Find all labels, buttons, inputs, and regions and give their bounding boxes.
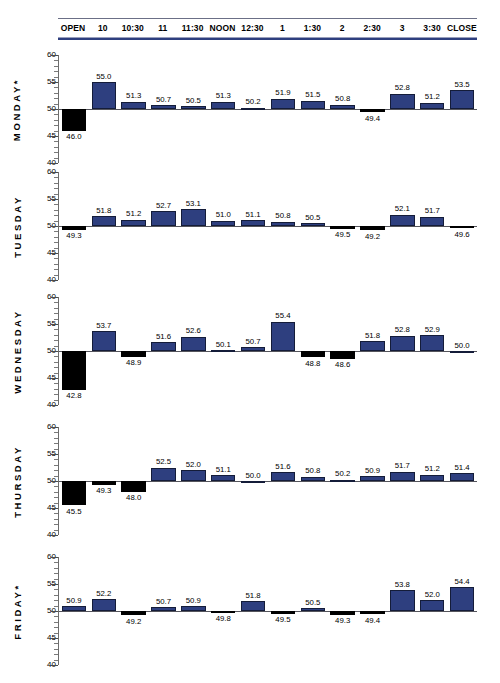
- bar[interactable]: [121, 102, 145, 109]
- bar-cell[interactable]: 55.4: [268, 297, 298, 405]
- bar[interactable]: [241, 108, 265, 110]
- bar[interactable]: [450, 351, 474, 353]
- bar-cell[interactable]: 55.0: [89, 55, 119, 163]
- bar-cell[interactable]: 52.6: [178, 297, 208, 405]
- bar-cell[interactable]: 53.7: [89, 297, 119, 405]
- bar-cell[interactable]: 50.8: [298, 427, 328, 535]
- bar-cell[interactable]: 51.2: [119, 172, 149, 280]
- bar-cell[interactable]: 48.6: [328, 297, 358, 405]
- bar-cell[interactable]: 51.1: [208, 427, 238, 535]
- bar[interactable]: [271, 611, 295, 614]
- bar-cell[interactable]: 50.8: [268, 172, 298, 280]
- bar[interactable]: [301, 477, 325, 481]
- bar-cell[interactable]: 51.7: [387, 427, 417, 535]
- bar-cell[interactable]: 54.4: [447, 557, 477, 665]
- bar-cell[interactable]: 51.3: [119, 55, 149, 163]
- bar-cell[interactable]: 50.5: [298, 172, 328, 280]
- bar[interactable]: [390, 94, 414, 109]
- bar[interactable]: [330, 105, 354, 109]
- bar-cell[interactable]: 48.9: [119, 297, 149, 405]
- bar-cell[interactable]: 52.0: [417, 557, 447, 665]
- bar[interactable]: [301, 223, 325, 226]
- bar[interactable]: [420, 335, 444, 351]
- bar-cell[interactable]: 50.2: [238, 55, 268, 163]
- bar-cell[interactable]: 50.9: [178, 557, 208, 665]
- bar[interactable]: [301, 351, 325, 357]
- bar[interactable]: [330, 611, 354, 615]
- bar-cell[interactable]: 49.4: [358, 55, 388, 163]
- bar[interactable]: [62, 351, 86, 390]
- bar-cell[interactable]: 51.2: [417, 427, 447, 535]
- bar[interactable]: [271, 222, 295, 226]
- bar[interactable]: [450, 587, 474, 611]
- bar[interactable]: [390, 472, 414, 481]
- bar[interactable]: [151, 105, 175, 109]
- bar-cell[interactable]: 49.3: [328, 557, 358, 665]
- bar[interactable]: [420, 103, 444, 109]
- bar-cell[interactable]: 49.4: [358, 557, 388, 665]
- bar[interactable]: [92, 82, 116, 109]
- bar[interactable]: [62, 109, 86, 131]
- bar[interactable]: [92, 216, 116, 226]
- bar-cell[interactable]: 51.1: [238, 172, 268, 280]
- bar[interactable]: [121, 220, 145, 226]
- bar-cell[interactable]: 51.9: [268, 55, 298, 163]
- bar-cell[interactable]: 51.8: [358, 297, 388, 405]
- bar-cell[interactable]: 50.0: [238, 427, 268, 535]
- bar[interactable]: [151, 607, 175, 611]
- bar[interactable]: [241, 220, 265, 226]
- bar[interactable]: [181, 106, 205, 109]
- bar-cell[interactable]: 51.2: [417, 55, 447, 163]
- bar[interactable]: [360, 611, 384, 614]
- bar[interactable]: [211, 350, 235, 352]
- bar[interactable]: [151, 468, 175, 482]
- bar-cell[interactable]: 46.0: [59, 55, 89, 163]
- bar-cell[interactable]: 53.5: [447, 55, 477, 163]
- bar-cell[interactable]: 52.5: [149, 427, 179, 535]
- bar-cell[interactable]: 51.0: [208, 172, 238, 280]
- bar[interactable]: [390, 215, 414, 226]
- bar[interactable]: [450, 90, 474, 109]
- bar-cell[interactable]: 48.8: [298, 297, 328, 405]
- bar[interactable]: [62, 226, 86, 230]
- bar[interactable]: [121, 351, 145, 357]
- bar[interactable]: [360, 341, 384, 351]
- bar[interactable]: [301, 101, 325, 109]
- bar[interactable]: [62, 606, 86, 611]
- bar-cell[interactable]: 52.1: [387, 172, 417, 280]
- bar[interactable]: [211, 102, 235, 109]
- bar[interactable]: [241, 601, 265, 611]
- bar-cell[interactable]: 52.0: [178, 427, 208, 535]
- bar-cell[interactable]: 49.6: [447, 172, 477, 280]
- bar-cell[interactable]: 50.2: [328, 427, 358, 535]
- bar[interactable]: [211, 221, 235, 226]
- bar[interactable]: [92, 599, 116, 611]
- bar[interactable]: [330, 351, 354, 359]
- bar-cell[interactable]: 50.8: [328, 55, 358, 163]
- bar-cell[interactable]: 50.0: [447, 297, 477, 405]
- bar[interactable]: [420, 475, 444, 481]
- bar[interactable]: [390, 590, 414, 611]
- bar[interactable]: [271, 99, 295, 109]
- bar-cell[interactable]: 51.8: [89, 172, 119, 280]
- bar-cell[interactable]: 52.9: [417, 297, 447, 405]
- bar-cell[interactable]: 49.8: [208, 557, 238, 665]
- bar-cell[interactable]: 49.3: [89, 427, 119, 535]
- bar-cell[interactable]: 52.8: [387, 297, 417, 405]
- bar-cell[interactable]: 51.6: [268, 427, 298, 535]
- bar-cell[interactable]: 52.7: [149, 172, 179, 280]
- bar[interactable]: [330, 480, 354, 482]
- bar-cell[interactable]: 49.2: [358, 172, 388, 280]
- bar[interactable]: [181, 606, 205, 611]
- bar[interactable]: [241, 481, 265, 483]
- bar-cell[interactable]: 50.7: [149, 557, 179, 665]
- bar-cell[interactable]: 48.0: [119, 427, 149, 535]
- bar[interactable]: [121, 481, 145, 492]
- bar-cell[interactable]: 51.7: [417, 172, 447, 280]
- bar-cell[interactable]: 49.5: [328, 172, 358, 280]
- bar[interactable]: [92, 331, 116, 351]
- bar-cell[interactable]: 50.1: [208, 297, 238, 405]
- bar[interactable]: [181, 209, 205, 226]
- bar-cell[interactable]: 51.3: [208, 55, 238, 163]
- bar[interactable]: [211, 475, 235, 481]
